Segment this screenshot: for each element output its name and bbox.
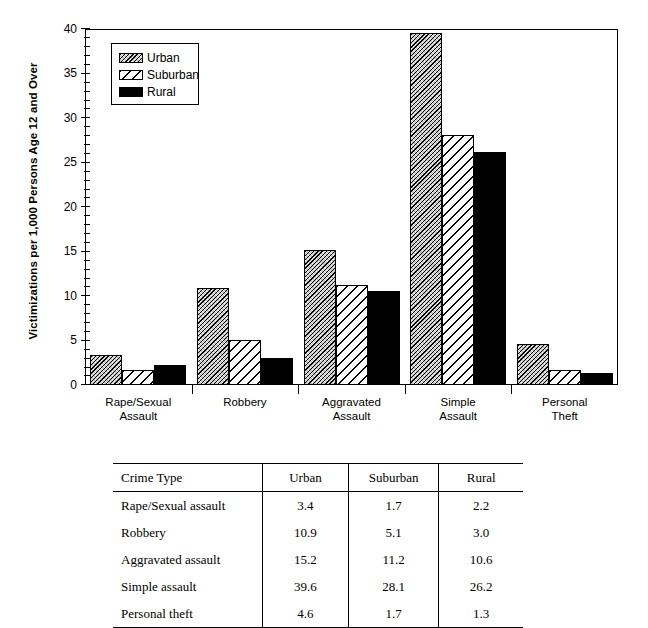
bar-rural xyxy=(368,291,400,385)
table-row: Personal theft4.61.71.3 xyxy=(113,600,523,627)
table-cell-crime: Aggravated assault xyxy=(113,546,263,573)
bar-suburban xyxy=(549,370,581,385)
y-axis-tick-label: 20 xyxy=(49,201,77,213)
x-axis-category-label: SimpleAssault xyxy=(405,396,512,423)
x-axis-tick xyxy=(511,385,512,394)
bar-rural xyxy=(154,365,186,385)
table-body: Rape/Sexual assault3.41.72.2Robbery10.95… xyxy=(113,492,523,628)
table-cell-crime: Rape/Sexual assault xyxy=(113,492,263,520)
y-axis-tick-label: 5 xyxy=(49,334,77,346)
table-header-urban: Urban xyxy=(263,464,349,492)
y-axis-tick-label: 15 xyxy=(49,245,77,257)
x-axis-category-label: PersonalTheft xyxy=(511,396,618,423)
x-axis-category-label: AggravatedAssault xyxy=(298,396,405,423)
chart-area: Victimizations per 1,000 Persons Age 12 … xyxy=(0,0,648,455)
table-cell-suburban: 1.7 xyxy=(348,600,439,627)
y-axis-tick-label: 25 xyxy=(49,156,77,168)
data-table: Crime Type Urban Suburban Rural Rape/Sex… xyxy=(113,463,523,627)
table-header-crime-type: Crime Type xyxy=(113,464,263,492)
table-cell-urban: 4.6 xyxy=(263,600,349,627)
bar-rural xyxy=(581,373,613,385)
legend-swatch-urban-icon xyxy=(119,53,143,63)
legend-item-urban: Urban xyxy=(119,49,198,66)
bar-rural xyxy=(261,358,293,385)
bar-suburban xyxy=(122,370,154,385)
x-axis-category-label: Robbery xyxy=(192,396,299,410)
table-cell-suburban: 11.2 xyxy=(348,546,439,573)
table-cell-urban: 10.9 xyxy=(263,519,349,546)
bar-suburban xyxy=(229,340,261,385)
table-row: Simple assault39.628.126.2 xyxy=(113,573,523,600)
table-cell-urban: 39.6 xyxy=(263,573,349,600)
table-row: Aggravated assault15.211.210.6 xyxy=(113,546,523,573)
legend-label-suburban: Suburban xyxy=(147,69,199,81)
table-cell-urban: 3.4 xyxy=(263,492,349,520)
table-cell-crime: Personal theft xyxy=(113,600,263,627)
bar-rural xyxy=(474,152,506,385)
table-cell-crime: Robbery xyxy=(113,519,263,546)
y-axis-tick-labels: 0510152025303540 xyxy=(47,0,77,400)
y-axis-tick-label: 35 xyxy=(49,67,77,79)
legend-item-suburban: Suburban xyxy=(119,66,198,83)
table-cell-suburban: 1.7 xyxy=(348,492,439,520)
table-header-suburban: Suburban xyxy=(348,464,439,492)
table-header-rural: Rural xyxy=(439,464,523,492)
bar-urban xyxy=(517,344,549,385)
bar-urban xyxy=(197,288,229,385)
bar-urban xyxy=(90,355,122,385)
bar-urban xyxy=(410,33,442,385)
table-cell-rural: 26.2 xyxy=(439,573,523,600)
table-header: Crime Type Urban Suburban Rural xyxy=(113,464,523,492)
y-axis-tick-label: 40 xyxy=(49,23,77,35)
bar-suburban xyxy=(442,135,474,385)
table-cell-rural: 2.2 xyxy=(439,492,523,520)
legend-item-rural: Rural xyxy=(119,83,198,100)
x-axis-tick xyxy=(192,385,193,394)
bar-urban xyxy=(304,250,336,385)
table-row: Robbery10.95.13.0 xyxy=(113,519,523,546)
x-axis-tick xyxy=(298,385,299,394)
table-cell-rural: 3.0 xyxy=(439,519,523,546)
x-axis-category-label: Rape/SexualAssault xyxy=(85,396,192,423)
table-header-row: Crime Type Urban Suburban Rural xyxy=(113,464,523,492)
table-cell-crime: Simple assault xyxy=(113,573,263,600)
y-axis-tick-label: 30 xyxy=(49,112,77,124)
table-cell-urban: 15.2 xyxy=(263,546,349,573)
table-cell-rural: 1.3 xyxy=(439,600,523,627)
bar-suburban xyxy=(336,285,368,385)
y-axis-label: Victimizations per 1,000 Persons Age 12 … xyxy=(27,16,39,386)
chart-legend: Urban Suburban Rural xyxy=(111,43,199,105)
y-axis-tick-label: 0 xyxy=(49,379,77,391)
table-cell-suburban: 5.1 xyxy=(348,519,439,546)
legend-swatch-suburban-icon xyxy=(119,70,143,80)
legend-label-rural: Rural xyxy=(147,86,176,98)
y-axis-tick-label: 10 xyxy=(49,290,77,302)
table-cell-rural: 10.6 xyxy=(439,546,523,573)
legend-swatch-rural-icon xyxy=(119,87,143,97)
x-axis-tick xyxy=(405,385,406,394)
table-row: Rape/Sexual assault3.41.72.2 xyxy=(113,492,523,520)
legend-label-urban: Urban xyxy=(147,52,180,64)
table-cell-suburban: 28.1 xyxy=(348,573,439,600)
